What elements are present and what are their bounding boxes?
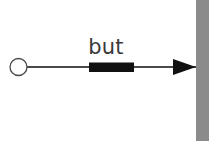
start-node (10, 59, 27, 76)
diagram-label: but (88, 35, 123, 59)
end-bar (196, 0, 209, 141)
highlighted-span (89, 63, 134, 73)
arrow-head (173, 59, 196, 75)
diagram-svg: but (0, 0, 218, 141)
diagram-canvas: but (0, 0, 218, 141)
